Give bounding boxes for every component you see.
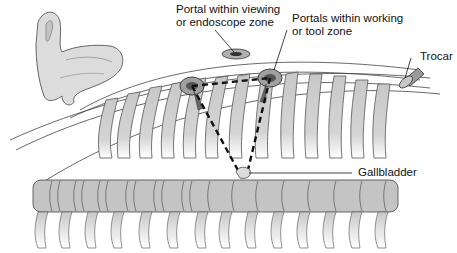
spine xyxy=(33,180,398,212)
ribs-lower xyxy=(35,212,388,248)
label-line: or tool zone xyxy=(292,25,403,38)
label-viewing-portal: Portal within viewing or endoscope zone xyxy=(176,3,280,29)
gallbladder-shape xyxy=(236,167,250,178)
scapula xyxy=(36,12,123,105)
label-working-portals: Portals within working or tool zone xyxy=(292,12,403,38)
label-line: Portals within working xyxy=(292,12,403,25)
ribs-vertical xyxy=(98,72,390,158)
label-gallbladder: Gallbladder xyxy=(358,166,417,179)
label-line: Portal within viewing xyxy=(176,3,280,16)
label-trocar: Trocar xyxy=(420,50,453,63)
anatomy-diagram: Portal within viewing or endoscope zone … xyxy=(0,0,457,253)
label-line: or endoscope zone xyxy=(176,16,280,29)
viewing-portal xyxy=(222,49,250,59)
